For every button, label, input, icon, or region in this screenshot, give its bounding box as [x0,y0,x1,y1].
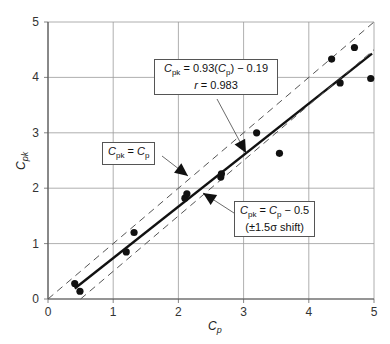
arrow-head [174,163,188,176]
x-tick-label: 5 [371,305,378,319]
x-tick-label: 2 [175,305,182,319]
data-point [218,170,225,177]
data-point [76,288,83,295]
scatter-chart: 012345012345 Cp Cpk [0,0,390,344]
x-tick-label: 0 [45,305,52,319]
x-axis-label: Cp [208,319,222,335]
x-tick-label: 3 [240,305,247,319]
data-point [336,79,343,86]
annotation-shift: Cpk = Cp − 0.5 (±1.5σ shift) [234,201,315,237]
data-point [253,129,260,136]
x-tick-label: 1 [110,305,117,319]
x-tick-label: 4 [305,305,312,319]
data-point [328,56,335,63]
data-point [351,44,358,51]
arrow-head [203,193,217,205]
y-tick-label: 1 [32,237,39,251]
data-point [123,248,130,255]
data-point [71,280,78,287]
annotation-regression: Cpk = 0.93(Cp) − 0.19 r = 0.983 [154,59,278,95]
y-tick-label: 3 [32,126,39,140]
annotation-identity: Cpk = Cp [102,142,155,165]
data-point [367,75,374,82]
y-tick-label: 4 [32,70,39,84]
y-tick-label: 0 [32,292,39,306]
annotation-arrows [162,99,246,213]
y-tick-label: 5 [32,15,39,29]
data-point [183,190,190,197]
arrow-head [235,139,246,153]
data-point [130,229,137,236]
data-point [276,150,283,157]
y-tick-label: 2 [32,181,39,195]
y-axis-label: Cpk [14,151,30,170]
